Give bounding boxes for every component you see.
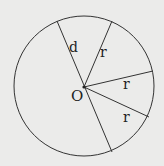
center-label: O [71, 87, 83, 105]
radius-label-1: r [100, 44, 107, 60]
radius-line-1 [84, 21, 112, 87]
radius-label-2: r [123, 76, 130, 92]
radius-label-3: r [123, 109, 130, 125]
circle-diagram: d r r r O [0, 0, 164, 166]
radius-line-3 [84, 87, 149, 117]
radius-line-2 [84, 71, 153, 87]
diameter-label: d [69, 39, 78, 55]
